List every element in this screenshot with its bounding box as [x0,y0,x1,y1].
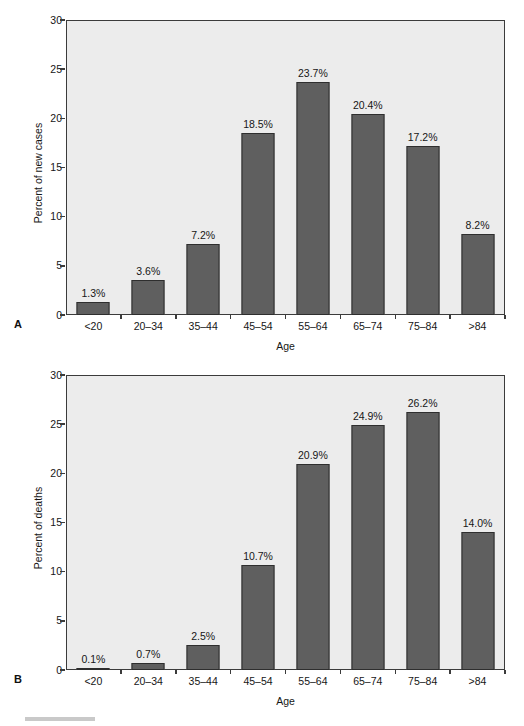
y-axis-title-wrap-a: Percent of new cases [22,20,23,315]
bar-value-label: 0.7% [136,649,160,660]
y-axis-tick-mark [60,118,65,120]
y-axis-title-b: Percent of deaths [32,448,44,608]
y-axis-tick-mark [60,669,65,671]
bar-value-label: 10.7% [243,551,273,562]
bar [296,82,329,315]
x-axis-tick-label: 20–34 [121,320,176,332]
bar [351,114,384,315]
bar-group: 7.2% [176,20,231,315]
x-axis-tick-mark [285,670,287,674]
x-axis-tick-label: 45–54 [231,675,286,687]
bar-value-label: 1.3% [81,288,105,299]
y-axis-tick-mark [60,620,65,622]
x-axis-tick-mark [120,670,122,674]
x-axis-tick-label: 55–64 [286,320,341,332]
y-axis-tick-mark [60,216,65,218]
y-axis-tick-mark [60,167,65,169]
bar [242,565,275,670]
bars-layer-a: 1.3%3.6%7.2%18.5%23.7%20.4%17.2%8.2% [66,20,505,315]
x-axis-tick-mark [504,315,506,319]
bar [187,244,220,315]
panel-letter-b: B [14,673,22,685]
bar [132,663,165,670]
bars-layer-b: 0.1%0.7%2.5%10.7%20.9%24.9%26.2%14.0% [66,375,505,670]
bar-value-label: 20.4% [353,100,383,111]
x-axis-tick-mark [285,315,287,319]
bar-group: 1.3% [66,20,121,315]
x-axis-tick-label: >84 [450,320,505,332]
bar-group: 17.2% [395,20,450,315]
x-axis-tick-label: 45–54 [231,320,286,332]
x-axis-tick-mark [230,670,232,674]
bar [406,146,439,315]
x-axis-tick-label: 35–44 [176,675,231,687]
bar-group: 20.4% [340,20,395,315]
bar-value-label: 20.9% [298,450,328,461]
bar-group: 24.9% [340,375,395,670]
x-axis-tick-mark [340,670,342,674]
x-axis-tick-label: 65–74 [340,320,395,332]
y-axis-tick-mark [60,473,65,475]
bar [461,532,494,670]
y-axis-tick-mark [60,522,65,524]
bar [351,425,384,670]
y-axis-tick-mark [60,314,65,316]
y-axis-tick-mark [60,374,65,376]
bar-value-label: 23.7% [298,68,328,79]
y-axis-tick-mark [60,19,65,21]
x-axis-tick-mark [395,670,397,674]
x-axis-tick-label: <20 [66,320,121,332]
x-axis-tick-labels-b: <2020–3435–4445–5455–6465–7475–84>84 [66,675,505,691]
bar-value-label: 0.1% [81,654,105,665]
x-axis-tick-label: 35–44 [176,320,231,332]
y-axis-tick-mark [60,265,65,267]
bar-value-label: 7.2% [191,230,215,241]
bar-value-label: 3.6% [136,266,160,277]
bar-group: 14.0% [450,375,505,670]
x-axis-tick-mark [449,670,451,674]
bar-value-label: 2.5% [191,631,215,642]
x-axis-tick-mark [175,670,177,674]
x-axis-tick-mark [449,315,451,319]
x-axis-tick-label: <20 [66,675,121,687]
chart-panel-b: 0.1%0.7%2.5%10.7%20.9%24.9%26.2%14.0% 05… [0,355,524,726]
bar [77,302,110,315]
x-axis-tick-label: 75–84 [395,675,450,687]
bar-group: 26.2% [395,375,450,670]
x-axis-tick-mark [395,315,397,319]
x-axis-tick-mark [120,315,122,319]
x-axis-tick-label: 20–34 [121,675,176,687]
x-axis-title-b: Age [66,695,505,707]
bar-value-label: 24.9% [353,411,383,422]
chart-panel-a: 1.3%3.6%7.2%18.5%23.7%20.4%17.2%8.2% 051… [0,0,524,363]
caption-rule [25,717,95,721]
y-axis-tick-mark [60,68,65,70]
y-axis-tick-mark [60,571,65,573]
x-axis-tick-labels-a: <2020–3435–4445–5455–6465–7475–84>84 [66,320,505,336]
x-axis-tick-mark [230,315,232,319]
y-axis-title-wrap-b: Percent of deaths [22,375,23,670]
bar-value-label: 14.0% [463,518,493,529]
x-axis-tick-label: 75–84 [395,320,450,332]
x-axis-title-a: Age [66,340,505,352]
bar-value-label: 18.5% [243,119,273,130]
bar-group: 10.7% [231,375,286,670]
bar-group: 20.9% [286,375,341,670]
bar-value-label: 17.2% [408,132,438,143]
bar [187,645,220,670]
bar-group: 23.7% [286,20,341,315]
y-axis-tick-mark [60,423,65,425]
x-axis-tick-label: >84 [450,675,505,687]
x-axis-tick-mark [504,670,506,674]
x-axis-tick-mark [175,315,177,319]
bar-value-label: 8.2% [466,220,490,231]
bar [132,280,165,315]
y-axis-title-a: Percent of new cases [32,93,44,253]
x-axis-tick-label: 65–74 [340,675,395,687]
bar-value-label: 26.2% [408,398,438,409]
bar [406,412,439,670]
x-axis-tick-label: 55–64 [286,675,341,687]
panel-letter-a: A [14,318,22,330]
bar-group: 3.6% [121,20,176,315]
bar [296,464,329,670]
